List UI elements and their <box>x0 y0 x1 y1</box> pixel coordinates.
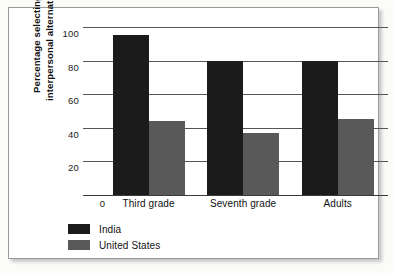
legend-swatch <box>68 224 90 234</box>
bar[interactable] <box>302 61 338 195</box>
chart-card: Percentage selecting interpersonal alter… <box>8 7 379 259</box>
bar-group <box>113 27 185 195</box>
x-tick-label: Adults <box>278 198 393 209</box>
bar[interactable] <box>113 35 149 195</box>
bar-group <box>302 27 374 195</box>
legend-label: United States <box>99 240 160 251</box>
legend-item[interactable]: United States <box>68 237 160 253</box>
bar-series-container <box>83 27 388 196</box>
bar[interactable] <box>207 61 243 195</box>
x-axis-baseline <box>83 195 388 196</box>
y-tick-label-20: 20 <box>68 162 79 173</box>
legend-label: India <box>99 224 121 235</box>
bar[interactable] <box>243 133 279 195</box>
bar[interactable] <box>338 119 374 195</box>
y-axis-title-line-1: Percentage selecting <box>31 0 44 112</box>
chart-legend: IndiaUnited States <box>68 221 160 253</box>
plot-area: 20406080100 <box>83 27 388 196</box>
bar[interactable] <box>149 121 185 195</box>
figure-canvas: Percentage selecting interpersonal alter… <box>0 0 393 273</box>
y-tick-label-60: 60 <box>68 95 79 106</box>
y-axis-title-line-2: interpersonal alternative <box>44 0 57 112</box>
y-tick-label-80: 80 <box>68 62 79 73</box>
bar-group <box>207 27 279 195</box>
y-axis-title: Percentage selecting interpersonal alter… <box>31 0 57 112</box>
y-tick-label-100: 100 <box>63 28 79 39</box>
y-tick-label-40: 40 <box>68 129 79 140</box>
legend-swatch <box>68 240 90 250</box>
legend-item[interactable]: India <box>68 221 160 237</box>
